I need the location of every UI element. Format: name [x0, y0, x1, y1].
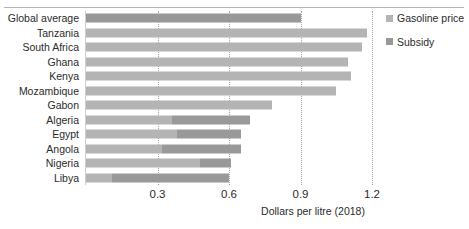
y-axis-label: Egypt — [0, 127, 83, 142]
bar-row — [86, 11, 372, 26]
stacked-bar — [86, 173, 229, 182]
legend-label: Gasoline price — [397, 13, 464, 24]
bar-row — [86, 156, 372, 171]
bar-segment-subsidy — [172, 115, 251, 124]
bar-row — [86, 98, 372, 113]
x-axis-tick-label: 0.9 — [293, 188, 309, 200]
x-axis-tick-label: 0.3 — [150, 188, 166, 200]
stacked-bar — [86, 14, 301, 23]
bar-row — [86, 127, 372, 142]
chart-top-divider — [4, 7, 464, 8]
bar-row — [86, 69, 372, 84]
stacked-bar — [86, 43, 362, 52]
y-axis-label: Global average — [0, 11, 83, 26]
x-axis-tick-labels: 0.30.60.91.2 — [0, 188, 469, 204]
y-axis-label: Angola — [0, 142, 83, 157]
legend-swatch-icon — [386, 15, 393, 22]
bar-segment-gasoline-price — [86, 159, 200, 168]
stacked-bar — [86, 72, 351, 81]
gridline — [372, 11, 373, 185]
bar-segment-gasoline-price — [86, 115, 172, 124]
bar-row — [86, 40, 372, 55]
y-axis-label: South Africa — [0, 40, 83, 55]
bar-segment-gasoline-price — [86, 144, 162, 153]
bar-row — [86, 142, 372, 157]
bar-segment-gasoline-price — [86, 86, 336, 95]
plot-area — [86, 11, 372, 185]
chart-legend: Gasoline priceSubsidy — [386, 13, 468, 60]
bar-segment-gasoline-price — [86, 101, 272, 110]
bar-segment-subsidy — [177, 130, 241, 139]
bar-segment-gasoline-price — [86, 28, 367, 37]
bar-segment-gasoline-price — [86, 57, 348, 66]
legend-item[interactable]: Subsidy — [386, 37, 468, 48]
y-axis-label: Kenya — [0, 69, 83, 84]
bar-row — [86, 171, 372, 186]
bar-row — [86, 113, 372, 128]
stacked-bar — [86, 159, 231, 168]
bar-segment-subsidy — [200, 159, 231, 168]
bar-row — [86, 55, 372, 70]
bar-row — [86, 26, 372, 41]
legend-swatch-icon — [386, 38, 393, 45]
y-axis-label: Tanzania — [0, 26, 83, 41]
bar-segment-gasoline-price — [86, 14, 301, 23]
bar-segment-gasoline-price — [86, 43, 362, 52]
bar-segment-gasoline-price — [86, 72, 351, 81]
stacked-bar — [86, 86, 336, 95]
x-axis-tick-label: 0.6 — [221, 188, 237, 200]
stacked-bar — [86, 101, 272, 110]
y-axis-label: Algeria — [0, 113, 83, 128]
y-axis-label: Nigeria — [0, 156, 83, 171]
y-axis-label: Mozambique — [0, 84, 83, 99]
y-axis-category-labels: Global averageTanzaniaSouth AfricaGhanaK… — [0, 11, 83, 185]
stacked-bar — [86, 144, 241, 153]
legend-item[interactable]: Gasoline price — [386, 13, 468, 24]
legend-label: Subsidy — [397, 37, 434, 48]
bar-row — [86, 84, 372, 99]
x-axis-title: Dollars per litre (2018) — [198, 205, 428, 217]
bar-segment-gasoline-price — [86, 173, 112, 182]
stacked-bar — [86, 28, 367, 37]
bar-segment-gasoline-price — [86, 130, 177, 139]
bar-segment-subsidy — [112, 173, 229, 182]
stacked-bar — [86, 57, 348, 66]
stacked-bar — [86, 115, 250, 124]
stacked-bar — [86, 130, 241, 139]
bar-segment-subsidy — [162, 144, 241, 153]
x-axis-tick-label: 1.2 — [364, 188, 380, 200]
bar-series-group — [86, 11, 372, 185]
y-axis-label: Ghana — [0, 55, 83, 70]
y-axis-label: Libya — [0, 171, 83, 186]
y-axis-label: Gabon — [0, 98, 83, 113]
gasoline-price-subsidy-chart: Global averageTanzaniaSouth AfricaGhanaK… — [0, 0, 469, 229]
